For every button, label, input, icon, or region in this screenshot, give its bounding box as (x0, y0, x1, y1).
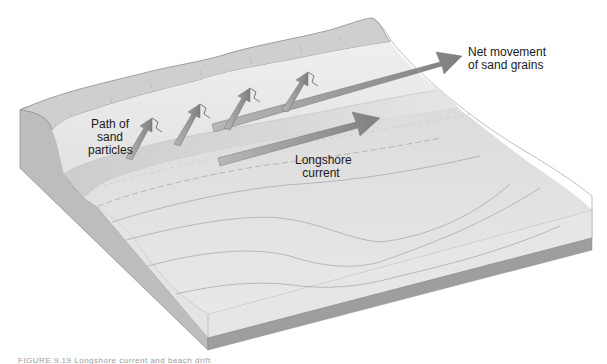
longshore-label-line-2: current (295, 167, 347, 180)
net-movement-label-line-2: of sand grains (468, 59, 546, 72)
path-of-sand-particles-label: Path of sand particles (88, 118, 132, 157)
figure-caption-truncated: FIGURE 9.19 Longshore current and beach … (18, 356, 211, 364)
path-label-line-3: particles (88, 144, 132, 157)
longshore-current-label: Longshore current (295, 154, 347, 180)
net-movement-label: Net movement of sand grains (468, 46, 546, 72)
